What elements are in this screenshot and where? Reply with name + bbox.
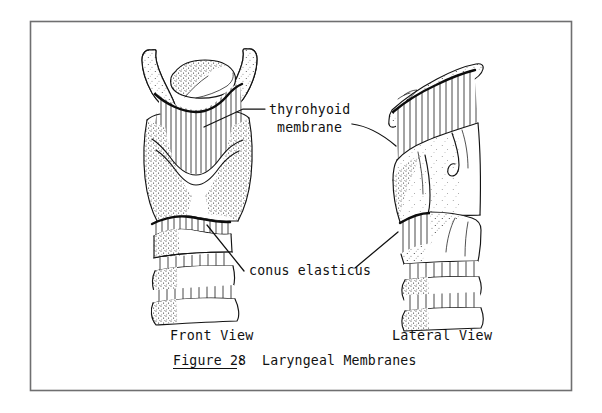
lateral-view-label: Lateral View <box>392 328 493 343</box>
front-view-drawing <box>142 49 257 325</box>
tracheal-ring-2-shading <box>151 299 178 325</box>
conus-elasticus-label: conus elasticus <box>249 263 371 278</box>
lateral-view-drawing <box>389 60 484 331</box>
thyrohyoid-label-line2: membrane <box>277 120 342 135</box>
figure-caption: Figure 28 : Laryngeal Membranes <box>173 353 417 369</box>
caption-figure-number: Figure 28 <box>173 353 246 368</box>
leader-thyrohyoid-lateral <box>352 124 396 146</box>
caption-title: Laryngeal Membranes <box>262 353 417 368</box>
laryngeal-membranes-illustration: thyrohyoid membrane conus elasticus Fron… <box>0 0 602 413</box>
tracheal-ring-1-shading <box>153 267 178 292</box>
caption-separator: : <box>237 353 245 368</box>
thyrohyoid-label-line1: thyrohyoid <box>269 102 350 117</box>
front-view-label: Front View <box>170 328 254 343</box>
figure-container: thyrohyoid membrane conus elasticus Fron… <box>0 0 602 413</box>
